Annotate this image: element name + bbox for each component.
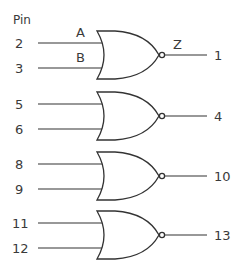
input-pin-label: 6	[15, 122, 23, 137]
inversion-bubble-icon	[159, 173, 164, 178]
input-pin-label: 2	[15, 36, 23, 51]
output-pin-label: 1	[214, 48, 222, 63]
input-pin-label: 8	[15, 157, 23, 172]
signal-label-b: B	[76, 50, 85, 65]
input-pin-label: 5	[15, 97, 23, 112]
inversion-bubble-icon	[159, 113, 164, 118]
nor-gate-body	[97, 31, 159, 79]
output-pin-label: 10	[214, 169, 231, 184]
nor-gate-body	[97, 92, 159, 140]
signal-label-z: Z	[173, 37, 182, 52]
gate-1: 231	[15, 31, 222, 79]
nor-gate-body	[97, 152, 159, 200]
input-pin-label: 9	[15, 182, 23, 197]
input-pin-label: 11	[12, 216, 29, 231]
gate-3: 8910	[15, 152, 231, 200]
inversion-bubble-icon	[159, 232, 164, 237]
output-pin-label: 13	[214, 228, 231, 243]
output-pin-label: 4	[214, 109, 222, 124]
signal-label-a: A	[76, 25, 85, 40]
nor-gate-body	[97, 211, 159, 259]
pin-header: Pin	[13, 13, 31, 27]
input-pin-label: 12	[12, 241, 29, 256]
gate-4: 111213	[12, 211, 231, 259]
input-pin-label: 3	[15, 61, 23, 76]
inversion-bubble-icon	[159, 52, 164, 57]
nor-gate-diagram: Pin A B Z 2315648910111213	[0, 0, 236, 268]
gate-2: 564	[15, 92, 222, 140]
